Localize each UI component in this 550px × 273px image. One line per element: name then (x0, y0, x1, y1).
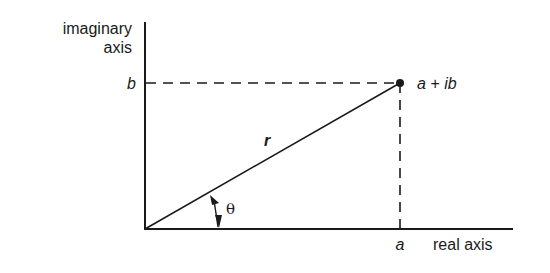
theta-arrowhead-down-icon (215, 215, 222, 228)
theta-arrowhead-up-icon (210, 195, 219, 205)
b-label: b (127, 75, 136, 92)
point-label: a + ib (417, 75, 457, 92)
r-label: r (264, 132, 271, 149)
complex-point-marker (396, 79, 404, 87)
radius-vector-line (145, 83, 400, 229)
theta-label: θ (226, 200, 235, 218)
a-label: a (396, 236, 405, 253)
imaginary-axis-label-line2: axis (104, 39, 132, 56)
complex-plane-diagram: imaginary axis b a + ib r θ a real axis (0, 0, 550, 273)
imaginary-axis-label-line1: imaginary (63, 20, 132, 37)
real-axis-label: real axis (433, 236, 493, 253)
